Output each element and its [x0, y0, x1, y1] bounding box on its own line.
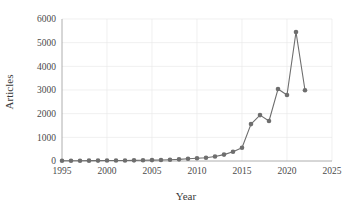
data-point-marker [195, 156, 200, 161]
x-tick-label: 2020 [278, 166, 297, 176]
x-axis-tick-labels: 1995200020052010201520202025 [53, 166, 342, 176]
gridlines [62, 19, 332, 161]
data-point-marker [141, 158, 146, 163]
x-tick-label: 2025 [323, 166, 342, 176]
data-point-marker [240, 145, 245, 150]
y-tick-label: 4000 [37, 62, 56, 72]
data-point-marker [168, 157, 173, 162]
chart-canvas: 0100020003000400050006000 19952000200520… [0, 0, 344, 209]
data-point-marker [105, 158, 110, 163]
data-point-marker [69, 158, 74, 163]
data-point-marker [87, 158, 92, 163]
data-point-marker [303, 88, 308, 93]
x-tick-label: 2005 [143, 166, 162, 176]
y-axis-title: Articles [3, 75, 15, 110]
data-point-marker [186, 156, 191, 161]
data-point-marker [78, 158, 83, 163]
data-point-marker [150, 158, 155, 163]
data-point-marker [204, 155, 209, 160]
data-point-markers [60, 30, 308, 163]
y-tick-label: 5000 [37, 38, 56, 48]
x-tick-label: 2010 [188, 166, 207, 176]
data-point-marker [285, 93, 290, 98]
data-point-marker [249, 122, 254, 127]
data-series-articles [62, 32, 305, 161]
data-point-marker [267, 119, 272, 124]
data-point-marker [231, 149, 236, 154]
data-point-marker [132, 158, 137, 163]
x-axis-title: Year [176, 190, 197, 202]
y-tick-label: 0 [51, 156, 56, 166]
data-point-marker [60, 159, 65, 164]
x-tick-label: 1995 [53, 166, 72, 176]
y-tick-label: 2000 [37, 109, 56, 119]
data-point-marker [258, 113, 263, 118]
data-point-marker [294, 30, 299, 35]
x-tick-label: 2015 [233, 166, 252, 176]
line-chart-figure: 0100020003000400050006000 19952000200520… [0, 0, 344, 209]
data-point-marker [177, 157, 182, 162]
data-point-marker [159, 158, 164, 163]
data-point-marker [114, 158, 119, 163]
x-tick-label: 2000 [98, 166, 117, 176]
data-point-marker [123, 158, 128, 163]
y-axis-tick-labels: 0100020003000400050006000 [37, 14, 56, 166]
data-point-marker [213, 154, 218, 159]
y-tick-label: 6000 [37, 14, 56, 24]
y-tick-label: 3000 [37, 85, 56, 95]
series-line-articles [62, 32, 305, 161]
data-point-marker [276, 87, 281, 92]
data-point-marker [222, 152, 227, 157]
y-tick-label: 1000 [37, 133, 56, 143]
data-point-marker [96, 158, 101, 163]
